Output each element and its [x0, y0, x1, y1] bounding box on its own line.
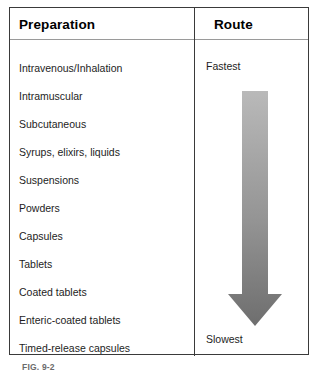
- table-row: Powders: [19, 201, 60, 215]
- route-label-fastest: Fastest: [206, 59, 240, 73]
- table-row: Tablets: [19, 257, 52, 271]
- table-row: Intramuscular: [19, 89, 83, 103]
- arrow-shape: [228, 91, 282, 326]
- route-label-slowest: Slowest: [206, 332, 243, 346]
- figure-caption: FIG. 9-2: [22, 362, 55, 372]
- table-header-row: Preparation Route: [10, 8, 308, 40]
- preparation-route-table: Preparation Route Intravenous/Inhalation…: [9, 7, 309, 355]
- table-row: Timed-release capsules: [19, 341, 130, 355]
- column-header-preparation: Preparation: [19, 8, 95, 40]
- down-arrow-icon: [195, 40, 309, 355]
- table-row: Subcutaneous: [19, 117, 86, 131]
- figure-caption-id: FIG. 9-2: [22, 362, 55, 372]
- table-row: Syrups, elixirs, liquids: [19, 145, 120, 159]
- column-header-route: Route: [203, 8, 253, 40]
- figure-container: Preparation Route Intravenous/Inhalation…: [0, 0, 317, 374]
- speed-gradient-arrow-icon: [195, 40, 309, 355]
- table-row: Coated tablets: [19, 285, 87, 299]
- route-column: Fastest Slowest: [195, 40, 309, 355]
- table-row: Intravenous/Inhalation: [19, 61, 122, 75]
- table-row: Enteric-coated tablets: [19, 313, 121, 327]
- table-row: Suspensions: [19, 173, 79, 187]
- table-row: Capsules: [19, 229, 63, 243]
